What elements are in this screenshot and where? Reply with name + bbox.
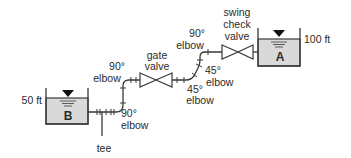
elbow-90-upper-right-label-line2: elbow [176,39,204,51]
swing-check-valve-label-line1: swing [224,6,251,18]
elbow-90-lower-label-line1: 90° [121,107,137,119]
swing-check-valve-icon [222,45,238,59]
elbow-90-lower-label-line2: elbow [121,119,149,131]
pipe-system-diagram: B 50 ft A 100 ft [0,0,351,158]
gate-valve-label-line2: valve [145,60,170,72]
tank-a-elevation-label: 100 ft [304,33,330,45]
swing-check-valve-label-line2: check [223,18,251,30]
elbow-45-lower-label-line2: elbow [186,94,214,106]
elbow-90-upper-right-label-line1: 90° [189,27,205,39]
tank-a: A 100 ft [258,28,330,66]
tank-a-letter: A [276,50,285,64]
gate-valve: gate valve [140,49,172,87]
gate-valve-icon [156,73,172,87]
swing-check-valve-icon [238,45,253,59]
tank-b-water-level-icon [62,90,74,97]
gate-valve-icon [140,73,156,87]
tank-b-elevation-label: 50 ft [22,94,43,106]
tank-a-water-level-icon [273,30,285,37]
elbow-45-upper-label-line2: elbow [206,76,234,88]
tank-b-letter: B [64,109,73,123]
tank-b: B 50 ft [22,88,88,124]
swing-check-valve: swing check valve [222,6,253,59]
tee-label: tee [97,142,112,154]
swing-check-valve-label-line3: valve [225,30,250,42]
elbow-90-upper-left-label-line1: 90° [109,60,125,72]
elbow-45-upper-label-line1: 45° [205,64,221,76]
elbow-90-upper-left-label-line2: elbow [93,72,121,84]
